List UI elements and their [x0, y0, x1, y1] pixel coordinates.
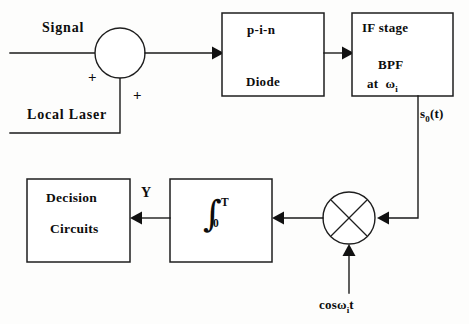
summing-junction-node	[95, 28, 145, 78]
local-oscillator-wire	[343, 244, 356, 293]
integrator-symbol: ∫T0	[203, 196, 234, 232]
local-laser-input-label: Local Laser	[27, 108, 107, 122]
local-laser-input-wire	[10, 78, 120, 133]
signal-input-label: Signal	[42, 21, 84, 35]
if-output-signal-label: s0(t)	[420, 107, 444, 124]
integral-upper-limit: T	[221, 197, 229, 209]
if-stage-at-text: at	[367, 76, 378, 91]
mixer-node	[323, 192, 375, 244]
if-output-to-mixer-wire	[377, 96, 418, 225]
integrator-output-label: Y	[141, 186, 151, 200]
cos-text: cos	[319, 297, 337, 312]
decision-circuits-label-line1: Decision	[46, 191, 97, 205]
mixer-to-integrator-wire	[272, 212, 323, 225]
block-diagram: Signal Local Laser + + p-i-n Diode IF st…	[0, 0, 469, 324]
photodiode-label-line1: p-i-n	[247, 23, 275, 36]
if-stage-omega-symbol: ω	[386, 76, 396, 91]
decision-circuits-label-line2: Circuits	[50, 222, 99, 236]
photodiode-to-if-wire	[324, 47, 354, 60]
lo-omega-symbol: ω	[337, 297, 347, 312]
if-output-tail: (t)	[430, 106, 444, 121]
integrator-to-decision-wire	[130, 212, 170, 225]
lo-time-variable: t	[349, 297, 354, 312]
diagram-canvas	[0, 0, 469, 324]
if-stage-label-line2: BPF	[378, 58, 403, 71]
local-oscillator-label: cosωit	[319, 298, 354, 315]
if-stage-label-line1: IF stage	[362, 21, 408, 34]
if-stage-label-line3: at ωi	[367, 77, 398, 94]
summing-junction-plus-sign-lower: +	[133, 88, 142, 103]
if-stage-omega-subscript: i	[395, 84, 398, 94]
photodiode-label-line2: Diode	[246, 75, 280, 88]
sum-to-photodiode-wire	[145, 47, 224, 60]
integral-limits: T0	[222, 196, 234, 232]
integral-lower-limit: 0	[213, 218, 219, 230]
summing-junction-plus-sign-upper: +	[88, 70, 97, 85]
